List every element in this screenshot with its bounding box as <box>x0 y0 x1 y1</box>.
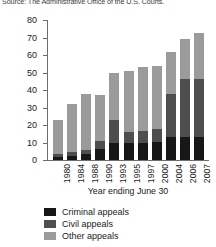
bar-group <box>53 120 63 160</box>
y-axis-tick-label: 60 <box>27 50 37 60</box>
bar-group <box>194 33 204 160</box>
bar-segment <box>67 104 77 152</box>
bar-group <box>124 71 134 160</box>
x-axis-tick-label: 2000 <box>160 164 170 183</box>
x-axis-tick-label: 1988 <box>90 164 100 183</box>
bar-group <box>109 73 119 161</box>
bar-group <box>81 94 91 161</box>
bar-segment <box>109 120 119 143</box>
x-axis-tick-label: 1993 <box>118 164 128 183</box>
x-axis-tick-label: 1984 <box>76 164 86 183</box>
bar-segment <box>124 71 134 132</box>
y-axis-tick-label: 0 <box>32 155 37 165</box>
y-axis-tick-label: 80 <box>27 15 37 25</box>
x-axis-line <box>47 160 209 161</box>
x-axis-tick-label: 1997 <box>146 164 156 183</box>
bar-segment <box>152 129 162 142</box>
x-axis-tick-label: 1980 <box>62 164 72 183</box>
bar-segment <box>124 143 134 160</box>
y-axis-tick-label: 50 <box>27 68 37 78</box>
bar-segment <box>138 143 148 161</box>
bar-segment <box>194 33 204 79</box>
y-axis-tick-label: 70 <box>27 33 37 43</box>
bar-segment <box>124 132 134 143</box>
appeals-filed-stacked-bar-chart: Source: The Administrative Office of the… <box>0 0 216 247</box>
bar-group <box>95 95 105 160</box>
y-axis-tick-label: 40 <box>27 85 37 95</box>
y-axis-tick: 0 <box>43 160 47 161</box>
bar-segment <box>180 137 190 160</box>
bar-segment <box>152 66 162 129</box>
y-axis-tick-label: 30 <box>27 103 37 113</box>
bar-series-container <box>47 20 208 160</box>
plot-area: 01020304050607080 <box>47 20 208 160</box>
bar-segment <box>166 52 176 94</box>
bar-group <box>138 67 148 160</box>
bar-segment <box>95 95 105 141</box>
bar-segment <box>138 67 148 131</box>
x-axis-tick-label: 2007 <box>202 164 212 183</box>
bar-segment <box>194 137 204 160</box>
legend-item: Other appeals <box>44 230 129 241</box>
bar-group <box>180 39 190 160</box>
bar-segment <box>166 137 176 160</box>
bar-segment <box>109 73 119 120</box>
bar-segment <box>152 142 162 160</box>
bar-segment <box>81 154 91 160</box>
legend-label: Other appeals <box>62 231 119 241</box>
bar-segment <box>53 157 63 160</box>
bar-segment <box>138 131 148 142</box>
chart-legend: Criminal appealsCivil appealsOther appea… <box>44 206 129 242</box>
x-axis-tick-label: 1990 <box>104 164 114 183</box>
bar-group <box>67 104 77 160</box>
bar-segment <box>53 120 63 154</box>
legend-swatch-icon <box>44 220 56 228</box>
bar-group <box>166 52 176 161</box>
legend-label: Civil appeals <box>62 219 113 229</box>
bar-segment <box>180 39 190 78</box>
y-axis-tick-label: 10 <box>27 138 37 148</box>
legend-swatch-icon <box>44 208 56 216</box>
bar-group <box>152 66 162 161</box>
bar-segment <box>180 79 190 138</box>
x-axis-tick-label: 2006 <box>188 164 198 183</box>
bar-segment <box>95 141 105 149</box>
legend-item: Criminal appeals <box>44 206 129 217</box>
bar-segment <box>81 94 91 150</box>
bar-segment <box>109 143 119 161</box>
bar-segment <box>95 149 105 160</box>
bar-segment <box>67 156 77 160</box>
x-axis-title: Year ending June 30 <box>47 186 209 196</box>
bar-segment <box>166 94 176 138</box>
legend-label: Criminal appeals <box>62 207 129 217</box>
y-axis-tick-label: 20 <box>27 120 37 130</box>
bar-segment <box>194 79 204 138</box>
legend-swatch-icon <box>44 232 56 240</box>
x-axis-tick-label: 1995 <box>132 164 142 183</box>
legend-item: Civil appeals <box>44 218 129 229</box>
x-axis-tick-label: 2004 <box>174 164 184 183</box>
source-note: Source: The Administrative Office of the… <box>2 0 216 6</box>
